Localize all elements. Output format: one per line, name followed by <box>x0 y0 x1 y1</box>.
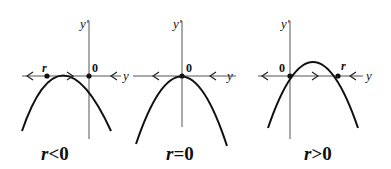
point-label-r: r <box>341 59 346 73</box>
y-prime-label: y' <box>171 16 182 31</box>
y-axis-label: y <box>364 68 372 83</box>
panel-r-negative: y' y r 0 r<0 <box>22 16 129 164</box>
caption-r-positive: r>0 <box>304 143 332 164</box>
equilibrium-point-0 <box>287 73 292 78</box>
equilibrium-point-0 <box>86 73 91 78</box>
parabola-curve <box>22 76 111 132</box>
point-label-0: 0 <box>186 61 192 75</box>
point-label-0: 0 <box>279 61 285 75</box>
y-axis-label: y <box>121 68 129 83</box>
caption-r-negative: r<0 <box>41 143 69 164</box>
caption-r-zero: r=0 <box>166 143 194 164</box>
equilibrium-point-r <box>335 73 340 78</box>
point-label-0: 0 <box>92 61 98 75</box>
equilibrium-point-0 <box>179 73 184 78</box>
y-prime-label: y' <box>78 16 89 31</box>
y-prime-label: y' <box>279 16 290 31</box>
bifurcation-diagram: y' y r 0 r<0 y' y 0 r=0 y' y 0 r <box>0 0 391 169</box>
panel-r-positive: y' y 0 r r>0 <box>258 16 372 164</box>
panel-r-zero: y' y 0 r=0 <box>133 16 236 164</box>
y-axis-label: y <box>225 68 233 83</box>
point-label-r: r <box>42 61 47 75</box>
